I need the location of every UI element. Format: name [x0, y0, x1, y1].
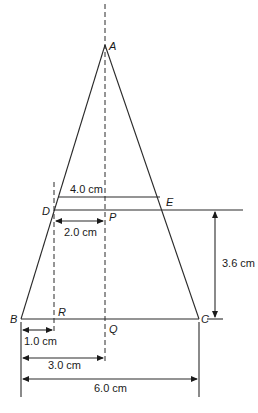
- label-4cm: 4.0 cm: [70, 183, 103, 195]
- label-3cm: 3.0 cm: [48, 359, 81, 371]
- side-ac: [105, 45, 199, 319]
- triangle-diagram: A D E P B R Q C 4.0 cm 2.0 cm 3.6 cm 1.0…: [0, 0, 258, 413]
- label-1cm: 1.0 cm: [24, 335, 57, 347]
- label-c: C: [201, 313, 209, 325]
- label-b: B: [10, 313, 17, 325]
- label-r: R: [58, 306, 66, 318]
- label-e: E: [166, 196, 174, 208]
- label-d: D: [42, 205, 50, 217]
- side-ab: [21, 45, 105, 319]
- label-q: Q: [109, 323, 118, 335]
- label-6cm: 6.0 cm: [94, 382, 127, 394]
- label-3-6cm: 3.6 cm: [222, 257, 255, 269]
- label-p: P: [109, 211, 117, 223]
- label-a: A: [108, 40, 116, 52]
- label-2cm: 2.0 cm: [64, 226, 97, 238]
